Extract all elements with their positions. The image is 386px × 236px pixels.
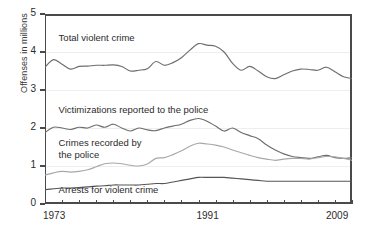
x-tick-label-1991: 1991	[197, 210, 219, 221]
series-label-crimes-recorded-by: Crimes recorded by the police	[59, 137, 142, 160]
x-tick-label-1973: 1973	[43, 210, 65, 221]
plot-area: Total violent crimeVictimizations report…	[45, 14, 352, 204]
x-tick-label-2009: 2009	[326, 210, 348, 221]
line-chart: Offenses in millions 012345 Total violen…	[0, 0, 386, 236]
series-label-victimizations-reported-to-the-police: Victimizations reported to the police	[59, 104, 209, 116]
y-tick-label-3: 3	[18, 83, 36, 94]
y-tick-label-1: 1	[18, 159, 36, 170]
series-label-total-violent-crime: Total violent crime	[59, 32, 135, 44]
y-tick-label-5: 5	[18, 7, 36, 18]
y-tick-label-4: 4	[18, 45, 36, 56]
series-line-total-violent-crime	[45, 43, 352, 78]
x-tick-2009	[352, 200, 353, 204]
series-label-arrests-for-violent-crime: Arrests for violent crime	[59, 184, 159, 196]
y-tick-label-0: 0	[18, 197, 36, 208]
y-tick-label-2: 2	[18, 121, 36, 132]
